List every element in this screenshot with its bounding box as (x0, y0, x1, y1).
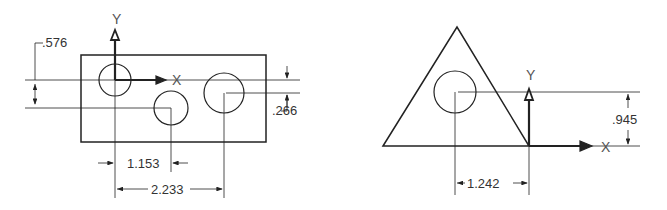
triangle-plate (383, 27, 529, 146)
dim-1242: 1.242 (467, 176, 500, 191)
right-drawing (383, 27, 640, 195)
left-y-label: Y (112, 11, 122, 27)
y-axis-arrow-icon (525, 89, 533, 100)
cad-drawings: Y X .576 .266 1.153 2.233 Y X .945 1.242 (0, 0, 667, 210)
x-axis-arrow-icon (156, 76, 166, 84)
left-drawing (25, 30, 300, 198)
left-x-label: X (172, 72, 182, 88)
dim-1153: 1.153 (127, 156, 160, 171)
x-axis-arrow-icon (580, 141, 592, 151)
plate-rectangle (81, 55, 266, 142)
right-x-label: X (601, 139, 611, 155)
dim-945: .945 (612, 112, 637, 127)
dim-576: .576 (42, 35, 67, 50)
right-y-label: Y (526, 67, 536, 83)
y-axis-arrow-icon (111, 30, 119, 40)
dim-2233: 2.233 (151, 182, 184, 197)
dim-266: .266 (272, 103, 297, 118)
